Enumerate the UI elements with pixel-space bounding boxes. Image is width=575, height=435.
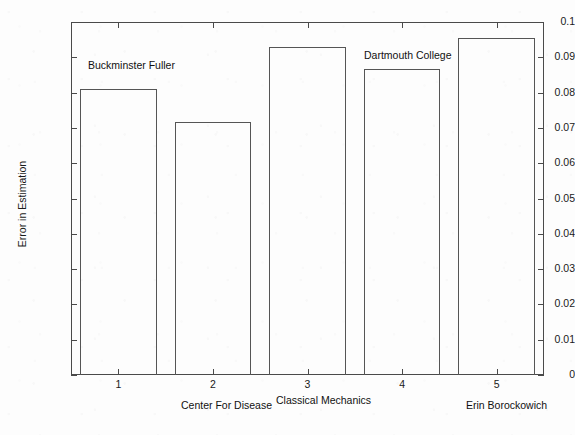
x-tick-label-4: 4 bbox=[387, 378, 417, 390]
x-tick-top-4 bbox=[402, 22, 403, 28]
y-tick-0 bbox=[71, 375, 77, 376]
y-tick-0.09 bbox=[71, 57, 77, 58]
y-tick-0.04 bbox=[71, 234, 77, 235]
y-tick-label-0.06: 0.06 bbox=[513, 157, 575, 168]
y-tick-0.03 bbox=[71, 269, 77, 270]
y-tick-label-0.03: 0.03 bbox=[513, 263, 575, 274]
y-tick-label-0.05: 0.05 bbox=[513, 193, 575, 204]
y-tick-label-0.1: 0.1 bbox=[513, 16, 575, 27]
x-tick-label-1: 1 bbox=[103, 378, 133, 390]
annotation-dartmouth-college: Dartmouth College bbox=[364, 49, 452, 61]
y-tick-label-0.09: 0.09 bbox=[513, 51, 575, 62]
y-tick-0.08 bbox=[71, 93, 77, 94]
y-tick-0.01 bbox=[71, 340, 77, 341]
y-tick-label-0.02: 0.02 bbox=[513, 298, 575, 309]
x-tick-top-3 bbox=[308, 22, 309, 28]
annotation-classical-mechanics: Classical Mechanics bbox=[276, 394, 371, 406]
annotation-erin-borockowich: Erin Borockowich bbox=[466, 399, 547, 411]
x-tick-top-2 bbox=[213, 22, 214, 28]
x-tick-label-5: 5 bbox=[482, 378, 512, 390]
y-tick-0.06 bbox=[71, 163, 77, 164]
x-tick-top-5 bbox=[497, 22, 498, 28]
bar-4 bbox=[364, 69, 441, 375]
y-axis-title: Error in Estimation bbox=[16, 139, 28, 269]
y-tick-label-0.07: 0.07 bbox=[513, 122, 575, 133]
bar-2 bbox=[175, 122, 252, 375]
y-tick-label-0: 0 bbox=[513, 369, 575, 380]
y-tick-0.02 bbox=[71, 304, 77, 305]
annotation-buckminster-fuller: Buckminster Fuller bbox=[88, 59, 175, 71]
bar-3 bbox=[269, 47, 346, 375]
x-tick-label-2: 2 bbox=[198, 378, 228, 390]
bar-1 bbox=[80, 89, 157, 375]
chart-page: 00.010.020.030.040.050.060.070.080.090.1… bbox=[0, 0, 575, 435]
y-tick-label-0.01: 0.01 bbox=[513, 334, 575, 345]
y-tick-0.1 bbox=[71, 22, 77, 23]
x-tick-top-1 bbox=[118, 22, 119, 28]
y-tick-label-0.08: 0.08 bbox=[513, 87, 575, 98]
x-tick-label-3: 3 bbox=[293, 378, 323, 390]
y-tick-0.07 bbox=[71, 128, 77, 129]
y-tick-label-0.04: 0.04 bbox=[513, 228, 575, 239]
y-tick-0.05 bbox=[71, 199, 77, 200]
annotation-center-for-disease: Center For Disease bbox=[181, 399, 272, 411]
